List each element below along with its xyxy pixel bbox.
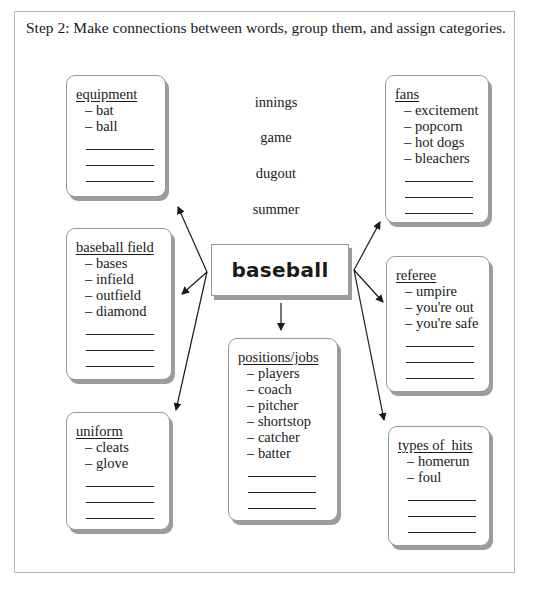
- arrow-to-fans-icon: [354, 222, 380, 270]
- arrow-to-uniform-icon: [176, 272, 207, 410]
- arrow-to-referee-icon: [354, 270, 383, 302]
- arrow-to-equipment-icon: [178, 207, 207, 272]
- arrow-to-types-of-hits-icon: [354, 270, 384, 420]
- connector-arrows: [0, 0, 557, 589]
